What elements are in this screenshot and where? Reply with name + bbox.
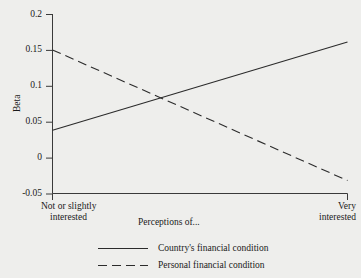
x-axis-ticks xyxy=(53,194,348,201)
legend-label-country: Country's financial condition xyxy=(158,243,268,253)
y-tick-label-4: 0 xyxy=(8,152,42,163)
x-tick-label-right-line2: interested xyxy=(300,212,356,224)
y-tick-label-1: 0.15 xyxy=(8,44,42,55)
x-axis-caption: Perceptions of... xyxy=(138,217,200,227)
y-tick-label-5: -0.05 xyxy=(4,188,42,199)
y-tick-label-3: 0.05 xyxy=(8,116,42,127)
x-tick-label-left-line2: interested xyxy=(50,212,87,224)
y-axis-title: Beta xyxy=(12,95,22,112)
series-line-personal xyxy=(53,50,348,181)
x-tick-label-left-line1: Not or slightly xyxy=(41,201,96,213)
x-tick-label-right-line1: Very xyxy=(310,201,356,213)
y-tick-label-0: 0.2 xyxy=(8,9,42,20)
chart-figure: Beta 0.2 0.15 0.1 0.05 0 -0.05 Not or sl… xyxy=(0,0,361,278)
series-line-country xyxy=(53,42,348,130)
y-axis-ticks xyxy=(46,15,53,195)
legend-label-personal: Personal financial condition xyxy=(158,260,265,270)
y-tick-label-2: 0.1 xyxy=(8,80,42,91)
chart-canvas xyxy=(0,0,361,278)
